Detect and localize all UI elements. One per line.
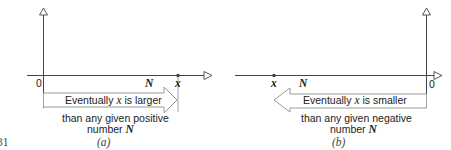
below-text-line2: number N [330,123,378,135]
panel-caption: (a) [97,136,111,149]
panel-caption: (b) [332,136,346,149]
arrow-text: Eventually x is larger [65,94,162,106]
figure-number: 31 [0,136,9,148]
number-line-figure: 0 N x Eventually x is larger than any gi… [0,0,451,150]
vertical-axis-arrowhead-icon [423,8,431,15]
vertical-axis-arrowhead-icon [40,8,48,15]
n-label: N [298,77,308,89]
n-label: N [144,77,154,89]
origin-label: 0 [429,78,435,90]
origin-label: 0 [36,77,42,89]
panel-a: 0 N x Eventually x is larger than any gi… [27,8,212,149]
x-label: x [174,77,181,89]
arrow-text: Eventually x is smaller [303,94,407,106]
panel-b: x N 0 Eventually x is smaller than any g… [235,8,442,149]
x-label: x [270,77,277,89]
below-text-line2: number N [87,123,135,135]
horizontal-axis-arrowhead-icon [434,72,442,80]
horizontal-axis-arrowhead-icon [204,72,212,80]
